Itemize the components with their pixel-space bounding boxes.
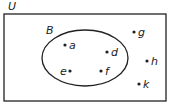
point-dot xyxy=(145,59,148,62)
point-h: h xyxy=(145,55,158,68)
point-dot xyxy=(68,69,71,72)
point-label: g xyxy=(138,26,145,39)
point-label: e xyxy=(60,65,67,78)
point-dot xyxy=(137,82,140,85)
point-label: f xyxy=(105,65,111,78)
point-dot xyxy=(105,50,108,53)
venn-diagram: U B a d e f g h k xyxy=(0,0,174,108)
point-label: a xyxy=(69,39,76,52)
point-dot xyxy=(132,30,135,33)
point-label: h xyxy=(151,55,158,68)
point-g: g xyxy=(132,26,145,39)
point-dot xyxy=(63,43,66,46)
set-b-label: B xyxy=(46,24,54,37)
point-label: d xyxy=(111,46,119,59)
universal-set-label: U xyxy=(8,0,16,13)
point-a: a xyxy=(63,39,76,52)
point-d: d xyxy=(105,46,119,59)
point-dot xyxy=(99,69,102,72)
point-label: k xyxy=(143,78,150,91)
point-e: e xyxy=(60,65,72,78)
point-k: k xyxy=(137,78,150,91)
point-f: f xyxy=(99,65,111,78)
